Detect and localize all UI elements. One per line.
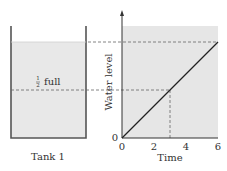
- y-axis-arrow-icon: [120, 10, 124, 16]
- x-tick-0: 0: [119, 141, 125, 152]
- y-tick-0: 0: [112, 132, 118, 143]
- tank-diagram: 0 0 2 4 6 Time Water level 1 2 full Tank…: [0, 0, 227, 171]
- x-tick-4: 4: [183, 141, 189, 152]
- y-axis-label: Water level: [103, 53, 114, 110]
- fraction-denominator: 2: [36, 82, 40, 88]
- x-axis-label: Time: [157, 152, 182, 163]
- x-tick-6: 6: [215, 141, 221, 152]
- x-tick-2: 2: [151, 141, 157, 152]
- fraction-numerator: 1: [36, 75, 40, 81]
- half-full-label: full: [44, 76, 61, 87]
- tank-label: Tank 1: [31, 151, 65, 162]
